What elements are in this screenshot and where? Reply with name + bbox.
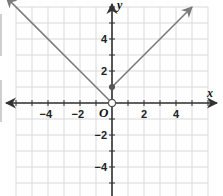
x-axis-label: x <box>206 86 213 100</box>
y-tick-label: −4 <box>94 161 107 173</box>
closed-dot-marker <box>109 84 115 90</box>
y-tick-label: 4 <box>101 33 108 45</box>
open-circle-marker <box>108 99 115 106</box>
y-tick-label: 2 <box>101 65 107 77</box>
y-tick-label: −2 <box>94 129 107 141</box>
origin-label: O <box>99 105 109 120</box>
y-axis-label: y <box>115 0 123 12</box>
right-ray-line <box>112 7 192 87</box>
x-tick-label: 2 <box>141 108 147 120</box>
x-tick-labels: −4−224 <box>39 108 179 120</box>
coordinate-plane: −4−224 42−2−4 x y O <box>0 0 223 196</box>
x-tick-label: 4 <box>173 108 180 120</box>
x-tick-label: −4 <box>39 108 52 120</box>
x-tick-label: −2 <box>71 108 84 120</box>
